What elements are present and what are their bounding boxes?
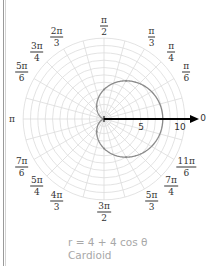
angle-label: 4π3 bbox=[50, 191, 64, 212]
angle-label: 7π4 bbox=[164, 176, 178, 197]
angle-label-denominator: 4 bbox=[168, 52, 174, 62]
angle-label-numerator: 11π bbox=[177, 156, 196, 167]
angle-label: 3π2 bbox=[97, 202, 111, 223]
angle-label: π4 bbox=[167, 41, 175, 62]
angle-label-numerator: 4π bbox=[50, 191, 64, 202]
angle-label: 2π3 bbox=[50, 26, 64, 47]
angle-label: 7π6 bbox=[15, 156, 29, 177]
angle-label-denominator: 4 bbox=[34, 187, 40, 197]
angle-label: π2 bbox=[100, 16, 108, 37]
radial-tick-5: 5 bbox=[138, 122, 144, 132]
angle-label-numerator: 7π bbox=[15, 156, 29, 167]
angle-label-denominator: 6 bbox=[183, 72, 189, 82]
curve-name-caption: Cardioid bbox=[68, 249, 158, 261]
angle-label-numerator: 2π bbox=[50, 26, 64, 37]
angle-label-denominator: 4 bbox=[168, 187, 174, 197]
angle-label: 3π4 bbox=[30, 41, 44, 62]
angle-label-numerator: π bbox=[167, 41, 175, 52]
angle-label-numerator: 3π bbox=[97, 202, 111, 213]
angle-label-denominator: 3 bbox=[54, 202, 60, 212]
angle-label: π3 bbox=[148, 26, 156, 47]
angle-label-numerator: 5π bbox=[145, 191, 159, 202]
angle-label: π6 bbox=[182, 61, 190, 82]
angle-label-numerator: π bbox=[148, 26, 156, 37]
angle-label-denominator: 2 bbox=[101, 27, 107, 37]
angle-label-numerator: π bbox=[100, 16, 108, 27]
angle-label-denominator: 6 bbox=[183, 167, 189, 177]
angle-label: 5π3 bbox=[145, 191, 159, 212]
angle-label-numerator: 5π bbox=[30, 176, 44, 187]
angle-label-denominator: 3 bbox=[149, 37, 155, 47]
angle-label-pi: π bbox=[9, 114, 15, 124]
equation-caption: r = 4 + 4 cos θ bbox=[68, 236, 158, 248]
angle-label-denominator: 4 bbox=[34, 52, 40, 62]
angle-label-numerator: 7π bbox=[164, 176, 178, 187]
polar-axis-zero-label: 0 bbox=[200, 113, 206, 123]
angle-label-denominator: 2 bbox=[101, 213, 107, 223]
radial-tick-10: 10 bbox=[174, 122, 185, 132]
angle-label-numerator: π bbox=[182, 61, 190, 72]
angle-label-numerator: 3π bbox=[30, 41, 44, 52]
angle-label: 11π6 bbox=[177, 156, 196, 177]
angle-label-numerator: 5π bbox=[15, 61, 29, 72]
angle-label: 5π6 bbox=[15, 61, 29, 82]
angle-label-denominator: 3 bbox=[149, 202, 155, 212]
angle-label-denominator: 3 bbox=[54, 37, 60, 47]
angle-label-denominator: 6 bbox=[19, 72, 25, 82]
angle-label: 5π4 bbox=[30, 176, 44, 197]
angle-label-denominator: 6 bbox=[19, 167, 25, 177]
